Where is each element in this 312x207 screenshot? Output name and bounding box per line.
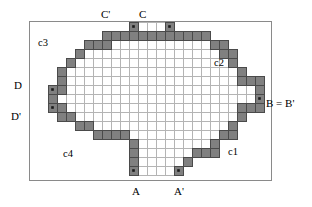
figure-root: C' C D D' B = B' A A' c3 c2 c4 c1 <box>0 0 312 207</box>
point-label-c-prime: C' <box>101 9 110 20</box>
point-label-d: D <box>14 80 22 91</box>
arc-label-c1: c1 <box>228 146 238 157</box>
arc-label-c3: c3 <box>38 37 48 48</box>
point-label-d-prime: D' <box>11 111 21 122</box>
point-label-b-equals-b-prime: B = B' <box>266 98 294 109</box>
point-label-a-prime: A' <box>174 186 184 197</box>
arc-label-c4: c4 <box>63 148 73 159</box>
point-label-c: C <box>139 9 146 20</box>
arc-label-c2: c2 <box>214 57 224 68</box>
point-label-a: A <box>132 186 140 197</box>
